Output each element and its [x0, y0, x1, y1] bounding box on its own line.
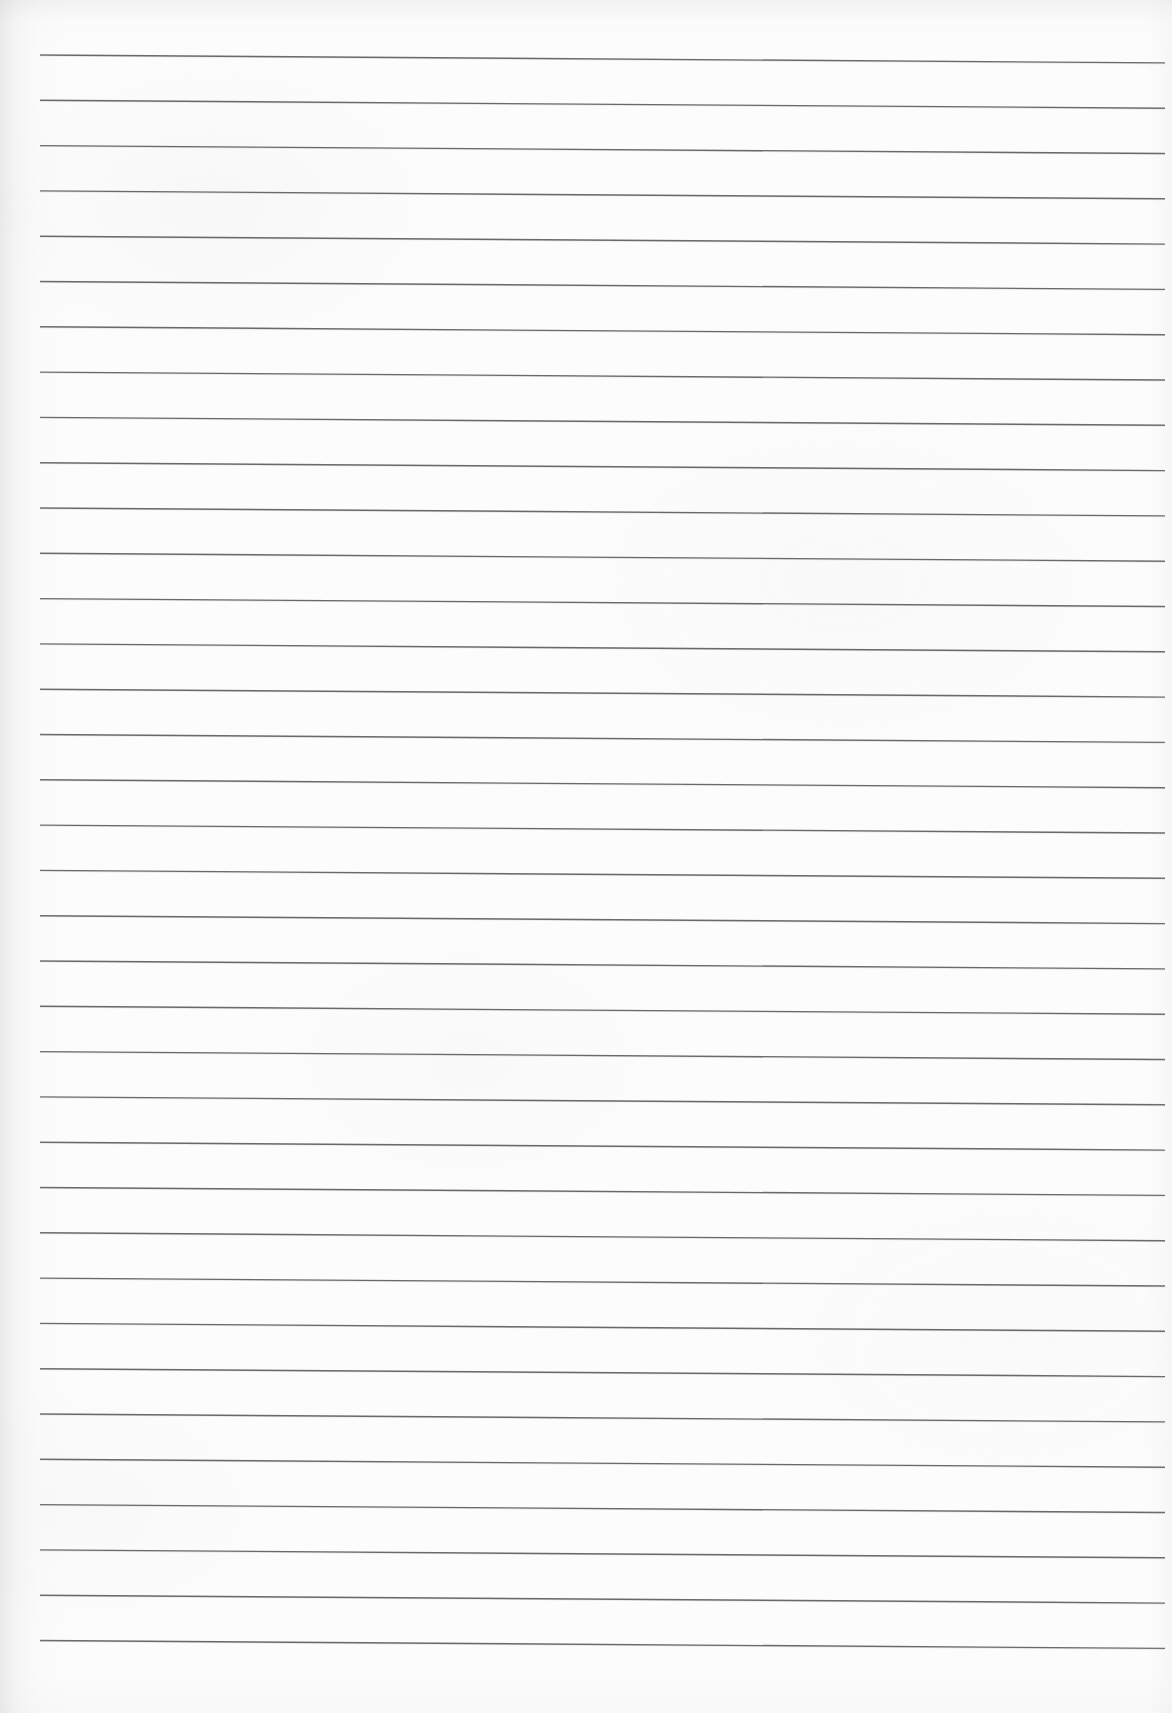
rule-line [40, 689, 1165, 697]
rule-line [40, 1459, 1165, 1467]
rule-line-scan-echo [40, 1098, 1165, 1106]
rule-line [40, 417, 1165, 425]
rule-line [40, 1006, 1165, 1014]
rule-line-scan-echo [40, 1143, 1165, 1151]
rule-line [40, 508, 1165, 516]
rule-line [40, 1323, 1165, 1331]
rule-line-scan-echo [40, 282, 1165, 290]
rule-line [40, 100, 1165, 108]
rule-line [40, 780, 1165, 788]
rule-line-scan-echo [40, 56, 1165, 64]
rule-line [40, 1641, 1165, 1649]
rule-line-scan-echo [40, 1460, 1165, 1468]
rule-line [40, 236, 1165, 244]
rule-line-scan-echo [40, 192, 1165, 200]
ruled-lines-layer [0, 0, 1172, 1713]
rule-line [40, 55, 1165, 63]
rule-line-scan-echo [40, 600, 1165, 608]
rule-line-scan-echo [40, 554, 1165, 562]
rule-line [40, 372, 1165, 380]
rule-line-scan-echo [40, 1324, 1165, 1332]
ruled-lines-group [40, 55, 1165, 1649]
rule-line-scan-echo [40, 735, 1165, 743]
rule-line-scan-echo [40, 328, 1165, 336]
rule-line [40, 282, 1165, 290]
rule-line [40, 961, 1165, 969]
rule-line [40, 1097, 1165, 1105]
rule-line [40, 644, 1165, 652]
rule-line-scan-echo [40, 826, 1165, 834]
rule-line [40, 1414, 1165, 1422]
rule-line [40, 916, 1165, 924]
rule-line-scan-echo [40, 1596, 1165, 1604]
rule-line-scan-echo [40, 464, 1165, 472]
rule-line-scan-echo [40, 1188, 1165, 1196]
rule-line [40, 1550, 1165, 1558]
scanned-page [0, 0, 1172, 1713]
rule-line-scan-echo [40, 645, 1165, 653]
rule-line [40, 1278, 1165, 1286]
rule-line-scan-echo [40, 962, 1165, 970]
rule-line-scan-echo [40, 781, 1165, 789]
rule-line-scan-echo [40, 1007, 1165, 1015]
rule-line-scan-echo [40, 1506, 1165, 1514]
rule-line-scan-echo [40, 373, 1165, 381]
rule-line-scan-echo [40, 1641, 1165, 1649]
rule-line [40, 1052, 1165, 1060]
rule-line-scan-echo [40, 1415, 1165, 1423]
rule-line-scan-echo [40, 1279, 1165, 1287]
rule-line-scan-echo [40, 690, 1165, 698]
rule-line-scan-echo [40, 101, 1165, 109]
rule-line-scan-echo [40, 917, 1165, 925]
rule-line-scan-echo [40, 1053, 1165, 1061]
rule-line [40, 463, 1165, 471]
rule-line [40, 191, 1165, 199]
rule-line-scan-echo [40, 237, 1165, 245]
rule-line-scan-echo [40, 418, 1165, 426]
rule-line [40, 1188, 1165, 1196]
ruled-lines-svg [0, 0, 1172, 1713]
rule-line-scan-echo [40, 147, 1165, 155]
rule-line [40, 735, 1165, 743]
rule-line-scan-echo [40, 1234, 1165, 1242]
rule-line-scan-echo [40, 509, 1165, 517]
rule-line [40, 599, 1165, 607]
rule-line [40, 1369, 1165, 1377]
rule-line-scan-echo [40, 871, 1165, 879]
rule-line [40, 1142, 1165, 1150]
rule-line [40, 1595, 1165, 1603]
rule-line [40, 327, 1165, 335]
rule-line [40, 825, 1165, 833]
rule-line [40, 870, 1165, 878]
rule-line [40, 1505, 1165, 1513]
rule-line-scan-echo [40, 1370, 1165, 1378]
rule-line-scan-echo [40, 1551, 1165, 1559]
rule-line [40, 553, 1165, 561]
rule-line [40, 146, 1165, 154]
rule-line [40, 1233, 1165, 1241]
